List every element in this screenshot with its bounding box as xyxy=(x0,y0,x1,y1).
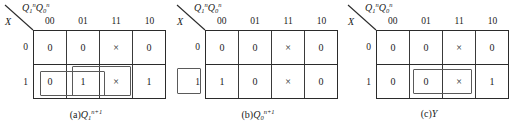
kmap-cell-x0-q01[interactable]: 0 xyxy=(239,31,272,64)
group-00-row1 xyxy=(177,68,201,94)
kmap-cell-x1-q10[interactable]: 0 xyxy=(305,65,337,98)
kmap-cell-x0-q11[interactable]: × xyxy=(272,31,305,64)
caption-symbol: Y xyxy=(432,108,438,119)
kmap-cell-x0-q01[interactable]: 0 xyxy=(410,31,443,64)
kmap-row: 00×0 xyxy=(206,31,337,65)
kmap-cell-x1-q11[interactable]: × xyxy=(272,65,305,98)
column-header-11: 11 xyxy=(443,15,476,28)
caption-prefix: (b) xyxy=(241,109,253,120)
cell-value: 0 xyxy=(391,43,396,53)
caption-superscript: n+1 xyxy=(91,108,102,115)
kmap-cell-x1-q10[interactable]: 1 xyxy=(133,65,165,98)
kmap-cell-x1-q00[interactable]: 0 xyxy=(377,65,410,98)
cell-value: 0 xyxy=(424,77,429,87)
cell-value: 1 xyxy=(81,77,86,87)
dont-care-value: × xyxy=(113,77,119,87)
row-variable-label: X xyxy=(348,16,354,27)
column-headers: 00011110 xyxy=(33,15,166,28)
kmap-cell-x1-q10[interactable]: 1 xyxy=(476,65,508,98)
kmap-c: Q1nQ0nX000111100100×000×1(c)Y xyxy=(343,0,515,129)
kmap-caption: (a)Q1n+1 xyxy=(0,108,172,121)
kmap-b: Q1nQ0nX000111100100×010×0(b)Q0n+1 xyxy=(172,0,344,129)
cell-value: 0 xyxy=(253,43,258,53)
column-header-01: 01 xyxy=(66,15,99,28)
column-header-11: 11 xyxy=(100,15,133,28)
kmap-cell-x0-q10[interactable]: 0 xyxy=(305,31,337,64)
dont-care-value: × xyxy=(113,43,119,53)
kmap-a: Q1nQ0nX000111100100×001×1(a)Q1n+1 xyxy=(0,0,172,129)
caption-prefix: (a) xyxy=(70,109,81,120)
column-header-01: 01 xyxy=(238,15,271,28)
cell-value: 0 xyxy=(253,77,258,87)
dont-care-value: × xyxy=(285,77,291,87)
column-headers: 00011110 xyxy=(205,15,338,28)
row-headers: 01 xyxy=(362,30,375,99)
cell-value: 0 xyxy=(319,43,324,53)
cell-value: 0 xyxy=(391,77,396,87)
karnaugh-map-figure: Q1nQ0nX000111100100×001×1(a)Q1n+1Q1nQ0nX… xyxy=(0,0,515,129)
kmap-cell-x1-q01[interactable]: 0 xyxy=(239,65,272,98)
column-header-00: 00 xyxy=(205,15,238,28)
kmap-cell-x0-q00[interactable]: 0 xyxy=(206,31,239,64)
row-variable-label: X xyxy=(177,16,183,27)
kmap-cell-x1-q00[interactable]: 1 xyxy=(206,65,239,98)
cell-value: 0 xyxy=(48,43,53,53)
kmap-cell-x0-q10[interactable]: 0 xyxy=(133,31,165,64)
row-header-0: 0 xyxy=(191,30,204,65)
row-variable-label: X xyxy=(5,16,11,27)
cell-value: 0 xyxy=(220,43,225,53)
cell-value: 0 xyxy=(147,43,152,53)
kmap-row: 00×0 xyxy=(377,31,508,65)
column-variable-label: Q1nQ0n xyxy=(194,1,221,14)
row-headers: 01 xyxy=(19,30,32,99)
cell-value: 1 xyxy=(220,77,225,87)
kmap-row: 00×0 xyxy=(34,31,165,65)
kmap-cell-x0-q11[interactable]: × xyxy=(100,31,133,64)
row-header-1: 1 xyxy=(362,65,375,100)
row-header-0: 0 xyxy=(19,30,32,65)
caption-symbol: Q xyxy=(81,109,88,120)
column-header-00: 00 xyxy=(33,15,66,28)
kmap-cell-x0-q10[interactable]: 0 xyxy=(476,31,508,64)
cell-value: 0 xyxy=(81,43,86,53)
cell-value: 1 xyxy=(490,77,495,87)
column-header-10: 10 xyxy=(305,15,338,28)
group-11-10-row1 xyxy=(413,69,472,94)
cell-value: 0 xyxy=(48,77,53,87)
dont-care-value: × xyxy=(456,77,462,87)
kmap-caption: (b)Q0n+1 xyxy=(172,108,344,121)
caption-prefix: (c) xyxy=(421,108,432,119)
caption-subscript: 0 xyxy=(260,114,263,121)
cell-value: 0 xyxy=(490,43,495,53)
kmap-caption: (c)Y xyxy=(343,108,515,119)
kmap-row: 10×0 xyxy=(206,65,337,98)
kmap-cell-x0-q01[interactable]: 0 xyxy=(67,31,100,64)
column-variable-label: Q1nQ0n xyxy=(365,1,392,14)
column-header-11: 11 xyxy=(272,15,305,28)
caption-subscript: 1 xyxy=(88,114,91,121)
caption-superscript: n+1 xyxy=(264,108,275,115)
column-header-01: 01 xyxy=(409,15,442,28)
row-header-1: 1 xyxy=(19,65,32,100)
kmap-cell-x0-q00[interactable]: 0 xyxy=(34,31,67,64)
column-header-10: 10 xyxy=(133,15,166,28)
column-headers: 00011110 xyxy=(376,15,509,28)
column-header-00: 00 xyxy=(376,15,409,28)
cell-value: 0 xyxy=(424,43,429,53)
cell-value: 1 xyxy=(147,77,152,87)
kmap-cell-x0-q11[interactable]: × xyxy=(443,31,476,64)
kmap-cell-x0-q00[interactable]: 0 xyxy=(377,31,410,64)
dont-care-value: × xyxy=(456,43,462,53)
column-variable-label: Q1nQ0n xyxy=(22,1,49,14)
cell-value: 0 xyxy=(319,77,324,87)
row-header-0: 0 xyxy=(362,30,375,65)
column-header-10: 10 xyxy=(476,15,509,28)
dont-care-value: × xyxy=(285,43,291,53)
kmap-grid: 00×010×0 xyxy=(205,30,338,99)
